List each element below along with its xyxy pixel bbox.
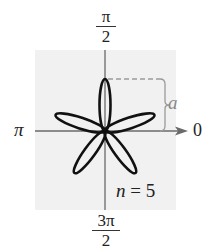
petal-count-caption: n = 5 bbox=[116, 180, 155, 202]
dimension-label-a: a bbox=[168, 92, 178, 114]
denominator: 2 bbox=[102, 27, 111, 45]
equals-sign: = bbox=[126, 180, 146, 201]
numerator: π bbox=[101, 8, 112, 26]
angle-label-3pi-over-2: 3π 2 bbox=[92, 212, 120, 249]
denominator: 2 bbox=[102, 231, 111, 249]
numerator: 3π bbox=[96, 212, 115, 230]
n-variable: n bbox=[116, 180, 126, 201]
n-value: 5 bbox=[146, 180, 156, 201]
angle-label-zero: 0 bbox=[193, 120, 202, 141]
angle-label-pi: π bbox=[14, 119, 24, 141]
angle-label-pi-over-2: π 2 bbox=[96, 8, 116, 45]
